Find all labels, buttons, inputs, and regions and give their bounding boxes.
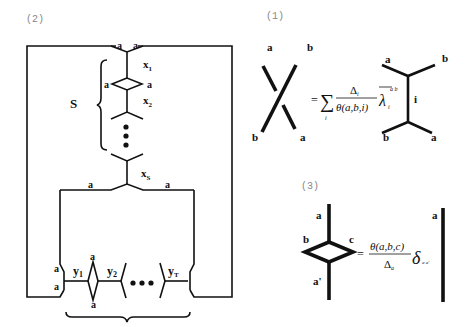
- label-yT: yT: [168, 264, 179, 279]
- label-a-mid-left: a: [88, 179, 93, 190]
- lambda-subscript: i: [388, 104, 390, 110]
- label-a-bottom-diamond-bottom: a: [91, 299, 96, 310]
- label-bubble-b: b: [303, 233, 309, 245]
- vertex-after-x2: [111, 112, 143, 119]
- bottom-diamond: [88, 262, 98, 300]
- dot-1: [123, 124, 128, 129]
- vertex-before-yT: [160, 263, 165, 298]
- label-a-diamond-right: a: [147, 79, 152, 90]
- ellipsis-dot-3: [148, 280, 153, 285]
- label-y2: y2: [107, 264, 117, 279]
- ellipsis-dot-1: [130, 280, 135, 285]
- kronecker-delta: δ: [412, 248, 421, 268]
- label-cross-a-top: a: [267, 41, 273, 53]
- lambda-symbol: λ: [378, 92, 386, 109]
- label-bubble-a-top: a: [316, 209, 322, 221]
- lambda-superscript: a b: [390, 86, 398, 92]
- label-a-bottom-left-upper: a: [54, 263, 59, 274]
- label-tree-b-top: b: [442, 52, 448, 64]
- right-rail: [190, 190, 194, 290]
- upper-diamond: [112, 78, 142, 90]
- label-bubble-a-prime: a': [313, 275, 322, 287]
- fraction-denominator: θ(a,b,i): [336, 101, 369, 114]
- left-rail: [60, 190, 64, 290]
- top-vertex: [111, 46, 143, 78]
- label-a-bottom-diamond-top: a: [90, 251, 95, 262]
- label-cross-a-bottom: a: [300, 131, 306, 143]
- label-tree-a-bottom: a: [431, 131, 437, 143]
- label-x2: x2: [143, 94, 153, 109]
- label-a-top-right: a: [133, 40, 138, 51]
- label-a-diamond-left: a: [104, 79, 109, 90]
- label-a-bottom-left-lower: a: [54, 281, 59, 292]
- equals-sign: =: [311, 93, 318, 107]
- label-tree-b-bottom: b: [383, 131, 389, 143]
- brace-S: [97, 60, 107, 150]
- panel-1-caption: (1): [266, 11, 284, 22]
- fraction3-denominator: Δa: [384, 258, 394, 271]
- sum-symbol: ∑: [320, 90, 334, 113]
- label-strand-a-right: a: [432, 209, 438, 221]
- fraction-numerator: Δi: [350, 84, 359, 97]
- panel-2: (2) a: [26, 14, 232, 322]
- panel-3-caption: (3): [301, 181, 319, 192]
- crossing-under-strand-bottom: [283, 105, 295, 129]
- label-cross-b-bottom: b: [252, 131, 258, 143]
- fraction3-numerator: θ(a,b,c): [370, 240, 404, 253]
- dot-3: [123, 142, 128, 147]
- label-S: S: [70, 96, 77, 111]
- dot-2: [123, 133, 128, 138]
- label-tree-i: i: [414, 93, 417, 105]
- outer-loop-right: [138, 46, 232, 297]
- brace-bottom: [66, 312, 190, 322]
- tree-graph: [382, 65, 435, 133]
- equals-sign-3: =: [357, 247, 364, 261]
- panel-3: (3) a b c a' = θ(a,b,c) Δa δ a a' a: [301, 181, 443, 302]
- panel-1: (1) a b b a = ∑ i Δi θ(a,b,i) λ i a b a …: [252, 11, 448, 143]
- vertex-before-xs: [111, 154, 143, 161]
- vertex-after-y2: [121, 263, 126, 298]
- label-a-mid-right: a: [165, 179, 170, 190]
- middle-split: [60, 184, 194, 190]
- label-y1: y1: [73, 264, 83, 279]
- bubble-diamond: [305, 242, 353, 262]
- label-xs: xS: [141, 167, 151, 182]
- sum-index: i: [325, 115, 327, 121]
- ellipsis-dot-2: [139, 280, 144, 285]
- outer-loop-left: [27, 46, 116, 297]
- label-x1: x1: [143, 58, 153, 73]
- kronecker-delta-subscript: a a': [422, 260, 430, 265]
- diagram-canvas: (2) a: [0, 0, 467, 327]
- label-a-top-left: a: [117, 40, 122, 51]
- label-bubble-c: c: [349, 233, 354, 245]
- label-tree-a-top: a: [385, 53, 391, 65]
- panel-2-caption: (2): [26, 14, 44, 25]
- label-cross-b-top: b: [307, 41, 313, 53]
- crossing-under-strand-top: [263, 66, 276, 91]
